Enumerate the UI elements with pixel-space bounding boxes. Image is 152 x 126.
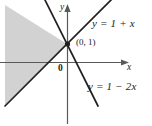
origin-label: 0: [58, 64, 63, 74]
line-label-y-equals-1-minus-2x: y = 1 − 2x: [88, 81, 137, 92]
graph-figure: y = 1 + x y = 1 − 2x y x (0, 1) 0: [0, 0, 152, 126]
line-label-y-equals-1-plus-x: y = 1 + x: [92, 18, 135, 29]
y-axis: [64, 4, 70, 124]
intersection-point-marker: [65, 41, 70, 46]
x-axis-label: x: [127, 63, 131, 73]
y-axis-label: y: [60, 3, 64, 13]
shaded-region: [5, 5, 67, 105]
intersection-point-label: (0, 1): [76, 38, 96, 47]
